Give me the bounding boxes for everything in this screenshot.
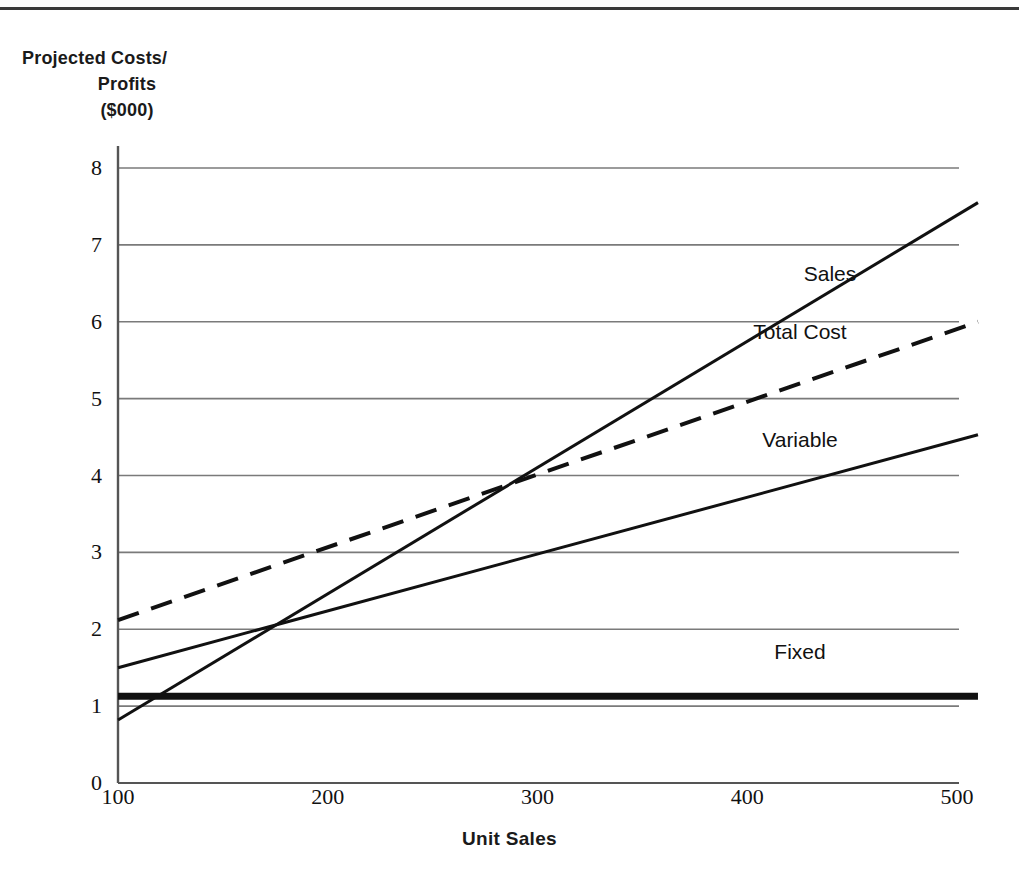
x-tick-label-100: 100 <box>78 786 158 808</box>
x-axis-title: Unit Sales <box>0 828 1019 850</box>
series-label-fixed: Fixed <box>774 641 825 662</box>
x-tick-label-500: 500 <box>917 786 997 808</box>
y-tick-label-3: 3 <box>62 541 102 563</box>
series-label-variable: Variable <box>762 429 838 450</box>
y-tick-label-5: 5 <box>62 388 102 410</box>
x-tick-label-300: 300 <box>498 786 578 808</box>
y-tick-label-6: 6 <box>62 311 102 333</box>
y-tick-label-8: 8 <box>62 157 102 179</box>
x-tick-label-200: 200 <box>288 786 368 808</box>
x-tick-label-400: 400 <box>707 786 787 808</box>
y-tick-label-1: 1 <box>62 695 102 717</box>
series-label-total-cost: Total Cost <box>753 321 846 342</box>
y-tick-label-2: 2 <box>62 618 102 640</box>
chart-svg <box>0 0 1019 890</box>
series-label-sales: Sales <box>804 263 857 284</box>
chart-plot-area <box>0 0 1019 890</box>
y-tick-label-7: 7 <box>62 234 102 256</box>
y-tick-label-4: 4 <box>62 465 102 487</box>
